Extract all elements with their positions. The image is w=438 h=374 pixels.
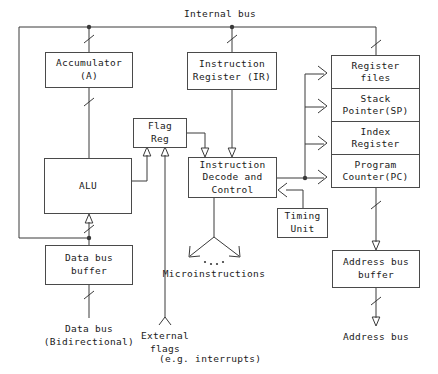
timing-to-decode-path xyxy=(286,190,303,208)
address-bus-buffer-block: Address bus buffer xyxy=(332,250,420,288)
program-counter-cell: Program Counter(PC) xyxy=(332,155,419,187)
timing-unit-block: Timing Unit xyxy=(277,208,328,238)
microinstructions-label: Microinstructions xyxy=(154,268,274,281)
microinstructions-branch-right xyxy=(214,237,239,256)
control-arrow-stack-pointer xyxy=(318,99,327,113)
index-register-cell: Index Register xyxy=(332,122,419,155)
external-flags-arrowhead-bottom xyxy=(159,317,171,325)
flagreg-to-decode-path xyxy=(187,133,205,148)
junction-to-alu-arrowhead xyxy=(85,214,93,223)
microinstructions-dot-1 xyxy=(204,261,206,263)
timing-to-decode-arrowhead xyxy=(278,183,287,197)
flagreg-to-decode-arrowhead xyxy=(201,148,209,157)
register-stack-block: Register files Stack Pointer(SP) Index R… xyxy=(331,55,420,188)
ir-to-decode-arrowhead xyxy=(228,148,236,157)
cpu-block-diagram: Internal bus Accumulator (A) Instruction… xyxy=(0,0,438,374)
alu-to-flagreg-path xyxy=(132,155,147,181)
data-bus-buffer-block: Data bus buffer xyxy=(45,245,133,285)
alu-block: ALU xyxy=(44,158,132,214)
instruction-decode-control-block: Instruction Decode and Control xyxy=(188,157,277,198)
pc-to-addressbuffer-arrowhead xyxy=(372,241,380,250)
microinstructions-dot-2 xyxy=(210,263,212,265)
internal-bus-label: Internal bus xyxy=(160,8,280,21)
accumulator-block: Accumulator (A) xyxy=(45,52,133,88)
microinstructions-branch-left xyxy=(190,237,214,256)
alu-to-flagreg-arrowhead xyxy=(143,147,151,156)
flag-reg-block: Flag Reg xyxy=(133,118,187,148)
instruction-register-block: Instruction Register (IR) xyxy=(187,52,277,90)
external-flags-label: External flags xyxy=(133,330,197,356)
register-files-cell: Register files xyxy=(332,56,419,89)
external-flags-arrowhead-top xyxy=(161,147,169,156)
control-arrow-register-files xyxy=(318,66,327,80)
address-bus-label: Address bus xyxy=(326,331,426,344)
stack-pointer-cell: Stack Pointer(SP) xyxy=(332,89,419,122)
microinstructions-dot-4 xyxy=(222,261,224,263)
control-arrow-index-register xyxy=(318,136,327,150)
external-flags-note-label: (e.g. interrupts) xyxy=(159,353,319,366)
control-arrow-program-counter xyxy=(318,170,327,184)
addressbuffer-to-addressbus-arrowhead xyxy=(372,317,380,326)
microinstructions-dot-3 xyxy=(216,263,218,265)
